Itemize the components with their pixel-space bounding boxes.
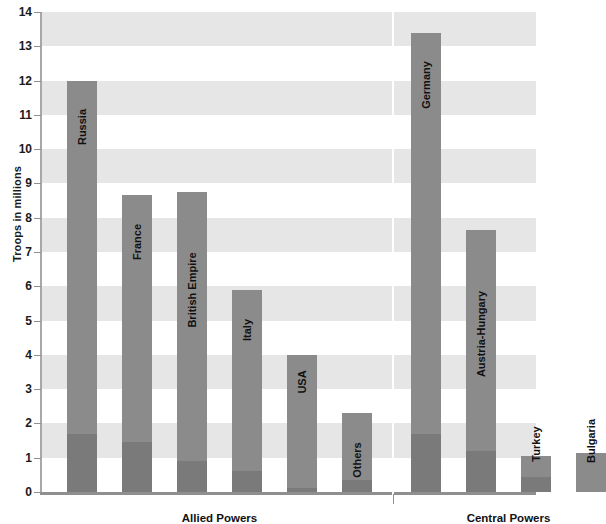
y-tick-label: 5 xyxy=(4,315,32,327)
bar-lower-segment xyxy=(521,477,551,492)
y-tick-label: 8 xyxy=(4,212,32,224)
y-tick-label: 6 xyxy=(4,280,32,292)
bar-label: Italy xyxy=(241,319,253,341)
y-tick xyxy=(34,423,41,424)
bar-label: Russia xyxy=(76,109,88,145)
y-tick xyxy=(34,389,41,390)
y-tick-label: 13 xyxy=(4,40,32,52)
group-label: Central Powers xyxy=(411,512,606,524)
bar[interactable]: USA xyxy=(287,355,317,492)
y-tick-label: 2 xyxy=(4,417,32,429)
y-tick-label: 9 xyxy=(4,177,32,189)
background-band xyxy=(40,149,536,183)
y-tick xyxy=(34,81,41,82)
group-divider-line xyxy=(392,12,394,500)
y-tick xyxy=(34,355,41,356)
y-tick xyxy=(34,252,41,253)
y-tick-label: 14 xyxy=(4,6,32,18)
y-tick xyxy=(34,115,41,116)
background-band xyxy=(40,81,536,115)
bar-label: Germany xyxy=(420,62,432,110)
bar-lower-segment xyxy=(177,461,207,492)
bar-label: Others xyxy=(351,442,363,477)
bar-lower-segment xyxy=(122,442,152,492)
bar-lower-segment xyxy=(232,471,262,492)
bar-lower-segment xyxy=(411,434,441,492)
bar[interactable]: British Empire xyxy=(177,192,207,492)
y-axis-line xyxy=(40,12,42,494)
bar[interactable]: Others xyxy=(342,413,372,492)
bar[interactable]: Austria-Hungary xyxy=(466,230,496,492)
bar-lower-segment xyxy=(342,480,372,492)
y-tick-label: 12 xyxy=(4,75,32,87)
bar[interactable]: Bulgaria xyxy=(576,453,606,492)
bar-label: Turkey xyxy=(530,426,542,461)
bar-lower-segment xyxy=(287,488,317,492)
bar-lower-segment xyxy=(67,434,97,492)
y-tick-label: 4 xyxy=(4,349,32,361)
y-tick-label: 3 xyxy=(4,383,32,395)
bar[interactable]: Italy xyxy=(232,290,262,492)
y-tick xyxy=(34,183,41,184)
y-tick xyxy=(34,12,41,13)
y-tick xyxy=(34,218,41,219)
y-tick-label: 0 xyxy=(4,486,32,498)
y-tick xyxy=(34,46,41,47)
background-band xyxy=(40,12,536,46)
group-label: Allied Powers xyxy=(67,512,372,524)
bar[interactable]: Turkey xyxy=(521,456,551,492)
bar-label: USA xyxy=(296,370,308,393)
y-tick xyxy=(34,286,41,287)
y-tick-label: 11 xyxy=(4,109,32,121)
background-band xyxy=(40,286,536,320)
plot-area: 14131211109876543210 RussiaFranceBritish… xyxy=(40,12,536,494)
y-tick xyxy=(34,321,41,322)
group-divider-tick xyxy=(393,494,394,504)
y-tick xyxy=(34,149,41,150)
y-tick-label: 1 xyxy=(4,452,32,464)
bar-label: Austria-Hungary xyxy=(475,291,487,377)
y-tick xyxy=(34,458,41,459)
y-tick-label: 7 xyxy=(4,246,32,258)
y-tick-label: 10 xyxy=(4,143,32,155)
bar[interactable]: Germany xyxy=(411,33,441,492)
bar[interactable]: France xyxy=(122,195,152,492)
bar-lower-segment xyxy=(466,451,496,492)
bar-label: British Empire xyxy=(186,252,198,327)
x-axis-line xyxy=(40,492,536,495)
bar-label: France xyxy=(131,224,143,260)
bar[interactable]: Russia xyxy=(67,81,97,492)
bar-label: Bulgaria xyxy=(585,419,597,463)
background-band xyxy=(40,218,536,252)
